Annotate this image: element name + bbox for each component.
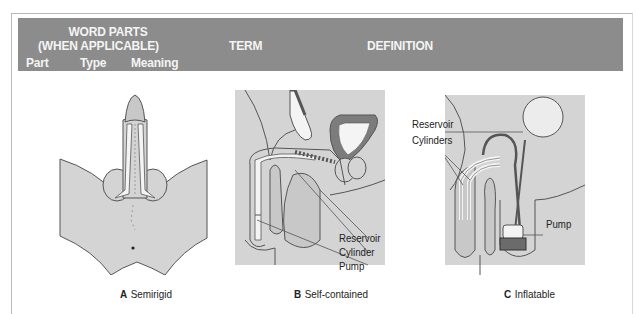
inflatable-implant-illustration — [445, 90, 595, 275]
definition-heading: DEFINITION — [367, 39, 433, 53]
caption-c: CInflatable — [504, 288, 555, 300]
caption-a-text: Semirigid — [131, 288, 172, 300]
when-applicable-heading: (WHEN APPLICABLE) — [38, 39, 159, 53]
caption-a-letter: A — [120, 288, 127, 300]
caption-b: BSelf-contained — [294, 288, 368, 300]
caption-c-text: Inflatable — [515, 288, 555, 300]
label-c-pump: Pump — [546, 218, 571, 230]
part-column-heading: Part — [26, 56, 49, 70]
caption-b-text: Self-contained — [305, 288, 368, 300]
caption-c-letter: C — [504, 288, 511, 300]
type-column-heading: Type — [80, 56, 106, 70]
label-b-cylinder: Cylinder — [339, 246, 375, 258]
label-b-reservoir: Reservoir — [339, 232, 380, 244]
semirigid-implant-illustration — [55, 90, 215, 275]
term-heading: TERM — [229, 39, 262, 53]
label-c-cylinders: Cylinders — [412, 134, 452, 146]
word-parts-heading: WORD PARTS — [58, 25, 158, 39]
caption-b-letter: B — [294, 288, 301, 300]
self-contained-implant-illustration — [235, 90, 400, 275]
caption-a: ASemirigid — [120, 288, 172, 300]
label-b-pump: Pump — [339, 260, 364, 272]
meaning-column-heading: Meaning — [131, 56, 178, 70]
table-header: WORD PARTS (WHEN APPLICABLE) TERM DEFINI… — [18, 18, 623, 71]
label-c-reservoir: Reservoir — [412, 118, 453, 130]
